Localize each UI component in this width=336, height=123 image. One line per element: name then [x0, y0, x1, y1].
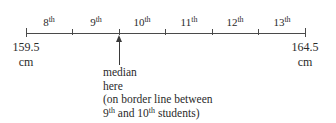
tick-4: [212, 29, 213, 35]
start-value-label: 159.5 cm: [6, 40, 46, 70]
annotation-line-4: 9th and 10th students): [103, 107, 213, 121]
tick-end: [305, 28, 306, 37]
segment-label-12th: 12th: [212, 15, 258, 29]
segment-label-8th: 8th: [26, 15, 72, 29]
segment-label-9th: 9th: [73, 15, 119, 29]
start-unit: cm: [6, 55, 46, 70]
annotation-line-1: median: [103, 66, 213, 80]
segment-label-10th: 10th: [119, 15, 165, 29]
end-value: 164.5: [285, 40, 325, 55]
tick-start: [26, 28, 27, 37]
tick-5: [258, 29, 259, 35]
segment-label-11th: 11th: [166, 15, 212, 29]
end-value-label: 164.5 cm: [285, 40, 325, 70]
tick-1: [72, 29, 73, 35]
annotation-line-2: here: [103, 80, 213, 94]
median-arrow-shaft: [119, 40, 120, 65]
start-value: 159.5: [6, 40, 46, 55]
segment-label-13th: 13th: [259, 15, 305, 29]
end-unit: cm: [285, 55, 325, 70]
tick-3: [165, 29, 166, 35]
annotation-line-3: (on border line between: [103, 93, 213, 107]
median-annotation: median here (on border line between 9th …: [103, 66, 213, 120]
